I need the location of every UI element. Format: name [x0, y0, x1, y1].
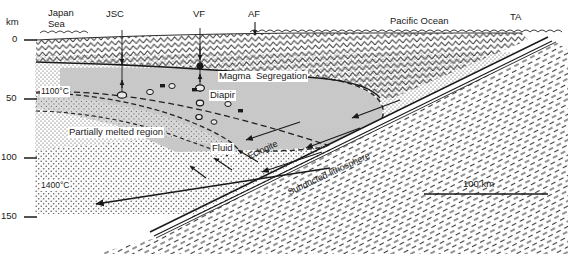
- isotherm-1100-label: 1100°C: [40, 86, 70, 97]
- depth-tick-100: 100: [1, 152, 17, 163]
- surface-label-japan-sea-line1: Japan: [48, 8, 74, 19]
- fluid-label: Fluid: [211, 143, 234, 154]
- surface-label-pacific-ocean: Pacific Ocean: [390, 16, 449, 27]
- figure-canvas: km 0 50 100 150 Japan Sea JSC VF AF Paci…: [0, 0, 568, 254]
- depth-tick-50: 50: [6, 93, 17, 104]
- surface-label-vf: VF: [193, 9, 205, 20]
- depth-axis-unit: km: [6, 17, 19, 28]
- magma-segregation-label: Magma Segregation: [218, 71, 308, 82]
- isotherm-1400-label: 1400°C: [40, 180, 70, 191]
- depth-tick-150: 150: [1, 211, 17, 222]
- partially-melted-region-label: Partially melted region: [68, 127, 164, 138]
- surface-label-af: AF: [248, 9, 260, 20]
- surface-label-ta: TA: [510, 12, 521, 23]
- scale-bar-label: 100 km: [463, 179, 494, 190]
- diapir-label: Diapir: [209, 90, 236, 101]
- surface-label-japan-sea-line2: Sea: [48, 19, 65, 30]
- depth-tick-0: 0: [12, 34, 17, 45]
- surface-label-jsc: JSC: [106, 9, 124, 20]
